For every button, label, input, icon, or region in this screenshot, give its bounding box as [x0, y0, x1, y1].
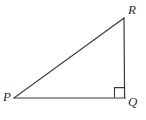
vertex-label-q: Q [128, 95, 137, 108]
geometry-figure: P Q R [0, 0, 146, 120]
vertex-label-p: P [3, 90, 11, 103]
side-qr-line [124, 18, 125, 98]
side-pr-line [14, 18, 124, 98]
vertex-label-r: R [128, 3, 136, 16]
right-triangle-diagram [0, 0, 146, 120]
right-angle-marker [115, 88, 125, 98]
